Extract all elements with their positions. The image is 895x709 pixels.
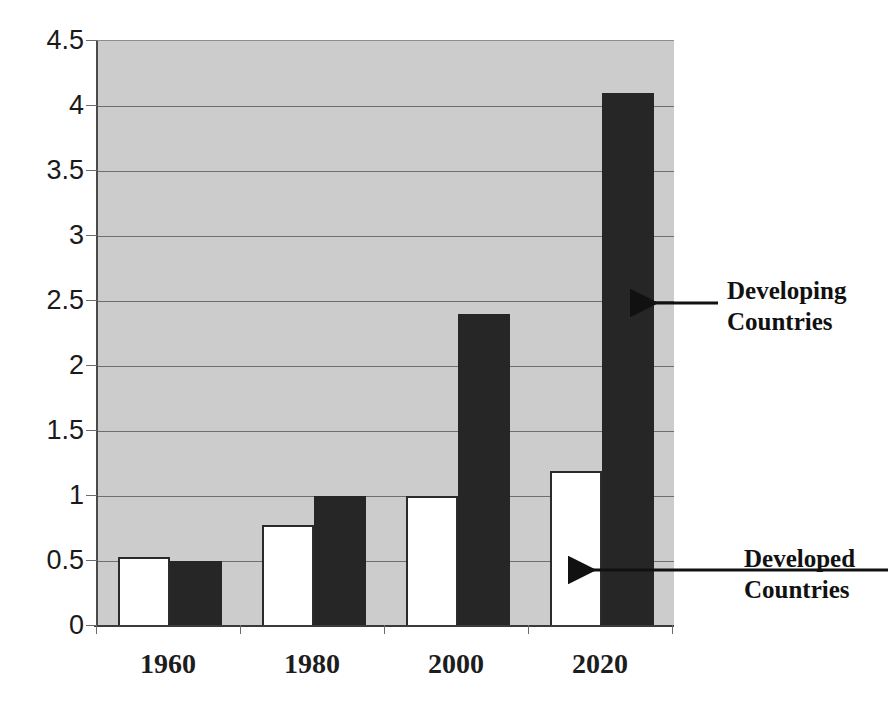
- x-axis-tick-mark: [672, 625, 673, 634]
- plot-inner: [98, 41, 674, 626]
- bar-developed-2000: [406, 496, 458, 626]
- annotation-developing-line1: Developing: [727, 275, 846, 306]
- y-axis-tick-label: 4: [22, 92, 84, 119]
- bar-developed-2020: [550, 471, 602, 626]
- bar-developing-2020: [602, 93, 654, 626]
- y-axis-tick-mark: [86, 495, 97, 496]
- y-axis-tick-label: 1: [22, 482, 84, 509]
- bar-developed-1960: [118, 557, 170, 626]
- x-axis-tick-label-2020: 2020: [528, 648, 672, 680]
- y-axis-tick-label: 0: [22, 612, 84, 639]
- y-axis-tick-mark: [86, 235, 97, 236]
- bar-developed-1980: [262, 525, 314, 626]
- annotation-developed-line2: Countries: [744, 574, 855, 605]
- x-axis-tick-mark: [528, 625, 529, 634]
- x-axis-tick-label-2000: 2000: [384, 648, 528, 680]
- gridline: [98, 301, 674, 302]
- y-axis-tick-mark: [86, 365, 97, 366]
- x-axis-tick-mark: [384, 625, 385, 634]
- y-axis-tick-label: 3.5: [22, 157, 84, 184]
- bar-developing-2000: [458, 314, 510, 626]
- chart-figure: 4.543.532.521.510.50 Developing Countrie…: [0, 0, 895, 709]
- y-axis-tick-label: 4.5: [22, 27, 84, 54]
- y-axis-tick-label: 2.5: [22, 287, 84, 314]
- gridline: [98, 106, 674, 107]
- annotation-developing: Developing Countries: [727, 275, 846, 337]
- x-axis-tick-mark: [240, 625, 241, 634]
- y-axis-tick-mark: [86, 170, 97, 171]
- y-axis-tick-mark: [86, 105, 97, 106]
- y-axis-tick-mark: [86, 560, 97, 561]
- y-axis-tick-label: 2: [22, 352, 84, 379]
- x-axis-tick-label-1960: 1960: [96, 648, 240, 680]
- y-axis-tick-label: 0.5: [22, 547, 84, 574]
- y-axis-tick-mark: [86, 430, 97, 431]
- y-axis-tick-label: 3: [22, 222, 84, 249]
- gridline: [98, 171, 674, 172]
- gridline: [98, 236, 674, 237]
- cropped-title-remnant: [130, 0, 510, 9]
- annotation-developed-line1: Developed: [744, 543, 855, 574]
- x-axis-tick-mark: [96, 625, 97, 634]
- bar-developing-1980: [314, 496, 366, 626]
- y-axis-tick-mark: [86, 300, 97, 301]
- gridline: [98, 431, 674, 432]
- annotation-developed: Developed Countries: [744, 543, 855, 605]
- y-axis-tick-label: 1.5: [22, 417, 84, 444]
- gridline: [98, 366, 674, 367]
- x-axis-tick-label-1980: 1980: [240, 648, 384, 680]
- bar-developing-1960: [170, 561, 222, 626]
- y-axis-tick-mark: [86, 40, 97, 41]
- annotation-developing-line2: Countries: [727, 306, 846, 337]
- plot-area: [96, 40, 674, 626]
- y-axis-labels: 4.543.532.521.510.50: [0, 0, 84, 709]
